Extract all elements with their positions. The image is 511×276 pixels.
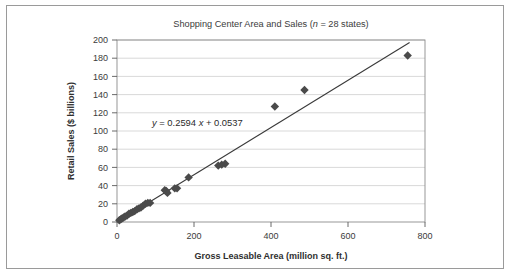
y-tick-labels: 200 180 160 140 120 100 80 60 40 20 0 [93,35,108,227]
x-tick-label: 400 [263,231,278,241]
data-point [271,102,279,110]
figure-container: 200 180 160 140 120 100 80 60 40 20 0 0 … [0,0,511,276]
y-tick-label: 160 [93,72,108,82]
y-tick-label: 140 [93,90,108,100]
chart-title-after: = 28 states) [318,19,369,29]
equation-eq: = 0.2594 [157,117,199,128]
scatter-chart: 200 180 160 140 120 100 80 60 40 20 0 0 … [0,0,511,276]
x-axis-label: Gross Leasable Area (million sq. ft.) [194,251,347,261]
x-tick-label: 800 [417,231,432,241]
regression-line [117,43,410,222]
y-tick-label: 120 [93,108,108,118]
data-point [300,86,308,94]
data-points [115,51,412,224]
y-tick-marks [112,40,117,222]
y-tick-label: 100 [93,126,108,136]
equation-tail: + 0.0537 [203,117,242,128]
y-tick-label: 20 [98,199,108,209]
x-tick-label: 200 [186,231,201,241]
y-axis-label: Retail Sales ($ billions) [66,82,76,180]
chart-title-before: Shopping Center Area and Sales ( [173,19,312,29]
y-tick-label: 80 [98,144,108,154]
y-tick-label: 200 [93,35,108,45]
y-tick-label: 60 [98,163,108,173]
regression-equation-annotation: y = 0.2594 x + 0.0537 [151,117,243,128]
y-tick-label: 40 [98,181,108,191]
x-tick-labels: 0 200 400 600 800 [114,231,432,241]
trend-line [117,43,410,222]
chart-title: Shopping Center Area and Sales (n = 28 s… [173,19,368,29]
x-tick-label: 0 [114,231,119,241]
x-tick-label: 600 [340,231,355,241]
y-tick-label: 180 [93,53,108,63]
y-tick-label: 0 [103,217,108,227]
x-tick-marks [117,222,425,227]
